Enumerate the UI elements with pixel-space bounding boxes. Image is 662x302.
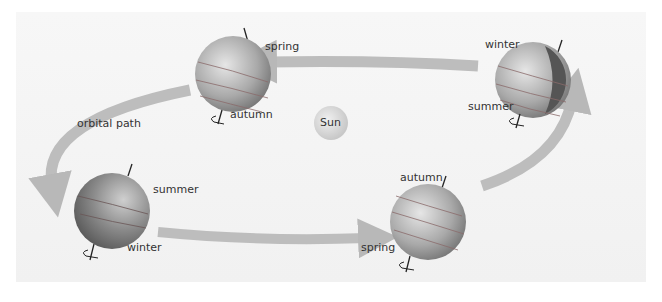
season-label: winter — [485, 38, 520, 51]
season-label: summer — [468, 100, 513, 113]
orbit-arrow-bottom — [158, 232, 368, 239]
orbit-arrow-left — [51, 90, 190, 185]
orbit-arrow-top — [266, 62, 478, 67]
sun-label: Sun — [320, 116, 341, 129]
orbital-path-label: orbital path — [77, 117, 141, 130]
earth-bottom-right — [390, 176, 466, 272]
season-label: autumn — [400, 171, 443, 184]
season-label: summer — [153, 183, 198, 196]
orbit-diagram: Sun orbital path spring autumn winter su… — [0, 0, 662, 302]
season-label: spring — [361, 241, 395, 254]
earth-top-right — [495, 40, 571, 128]
season-label: winter — [127, 241, 162, 254]
diagram-graphics — [0, 0, 662, 302]
season-label: spring — [265, 40, 299, 53]
season-label: autumn — [230, 108, 273, 121]
